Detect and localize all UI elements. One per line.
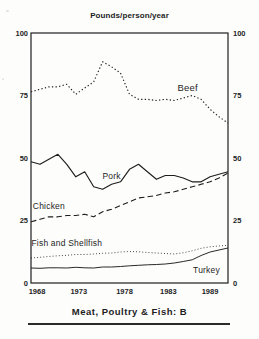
x-tick-label: 1978 bbox=[116, 287, 133, 296]
line-chart-canvas: 1001007575505025250019681973197819831989… bbox=[0, 0, 259, 339]
x-tick-label: 1968 bbox=[29, 287, 46, 296]
y-tick-label-right: 25 bbox=[233, 216, 241, 225]
series-line-chicken bbox=[31, 173, 228, 222]
series-line-pork bbox=[31, 154, 228, 189]
series-label-turkey: Turkey bbox=[193, 265, 220, 275]
x-tick-label: 1989 bbox=[202, 287, 219, 296]
series-line-beef bbox=[31, 62, 228, 123]
series-label-beef: Beef bbox=[178, 82, 199, 93]
figure-caption: Meat, Poultry & Fish: B bbox=[0, 306, 259, 317]
x-tick-label: 1983 bbox=[160, 287, 177, 296]
y-tick-label-right: 50 bbox=[233, 154, 241, 163]
y-tick-label-left: 0 bbox=[24, 279, 28, 288]
y-tick-label-right: 75 bbox=[233, 91, 241, 100]
caption-divider bbox=[28, 323, 230, 325]
scanned-chart-figure: Pounds/person/year 100100757550502525001… bbox=[0, 0, 259, 339]
y-tick-label-right: 100 bbox=[233, 29, 246, 38]
y-tick-label-left: 75 bbox=[20, 91, 28, 100]
y-tick-label-left: 25 bbox=[20, 216, 28, 225]
series-label-pork: Pork bbox=[102, 171, 121, 181]
y-tick-label-left: 100 bbox=[15, 29, 28, 38]
y-tick-label-left: 50 bbox=[20, 154, 28, 163]
x-tick-label: 1973 bbox=[70, 287, 87, 296]
series-label-chicken: Chicken bbox=[33, 201, 65, 211]
series-label-fish-and-shellfish: Fish and Shellfish bbox=[31, 238, 102, 248]
y-tick-label-right: 0 bbox=[233, 279, 237, 288]
